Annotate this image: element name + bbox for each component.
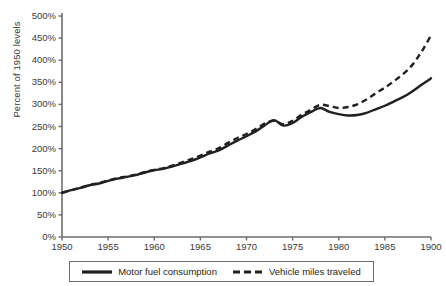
series-line-motor-fuel-consumption: [62, 78, 431, 192]
x-tick-label: 1970: [224, 242, 270, 252]
chart-legend: Motor fuel consumption Vehicle miles tra…: [69, 261, 374, 282]
legend-swatch-solid: [82, 267, 112, 277]
x-tick-label: 1950: [39, 242, 85, 252]
legend-item-vehicle-miles-traveled: Vehicle miles traveled: [233, 266, 361, 277]
axis-lines: [62, 13, 431, 237]
x-tick-label: 1900: [408, 242, 446, 252]
legend-label: Vehicle miles traveled: [269, 266, 361, 277]
x-tick-label: 1980: [316, 242, 362, 252]
x-tick-label: 1965: [177, 242, 223, 252]
legend-item-motor-fuel-consumption: Motor fuel consumption: [82, 266, 217, 277]
series-line-vehicle-miles-traveled: [62, 35, 431, 192]
x-tick-label: 1960: [131, 242, 177, 252]
legend-label: Motor fuel consumption: [118, 266, 217, 277]
x-tick-label: 1985: [362, 242, 408, 252]
x-tick-label: 1955: [85, 242, 131, 252]
x-tick-label: 1975: [270, 242, 316, 252]
legend-swatch-dashed: [233, 267, 263, 277]
